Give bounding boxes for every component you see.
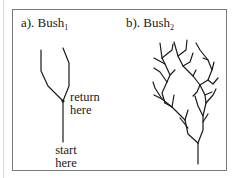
bush-drawings bbox=[0, 0, 237, 178]
bush-2-drawing bbox=[153, 40, 218, 164]
bush-1-drawing bbox=[41, 48, 69, 142]
return-point-marker bbox=[61, 99, 64, 102]
